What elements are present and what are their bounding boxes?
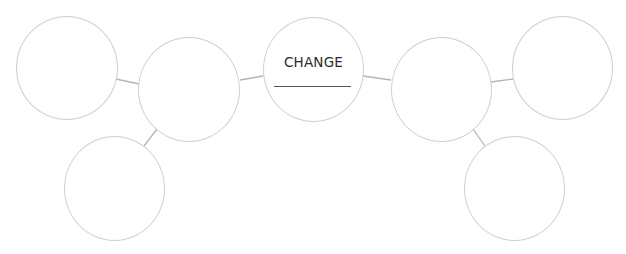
bubble-left-mid[interactable] [138,37,240,142]
bubble-right-bottom[interactable] [464,136,565,241]
connector-center-left [240,76,263,80]
connector-center-right [363,76,391,80]
bubble-right-top[interactable] [512,16,613,120]
connector-left-bottom [144,129,157,146]
bubble-left-bottom[interactable] [64,136,165,241]
bubble-left-top[interactable] [16,16,118,120]
connector-right-bottom [473,129,485,146]
bubble-right-mid[interactable] [391,37,492,142]
connector-left-top [116,79,139,84]
connector-right-top [491,79,513,82]
center-label: CHANGE [263,54,364,70]
center-underline [274,86,351,87]
